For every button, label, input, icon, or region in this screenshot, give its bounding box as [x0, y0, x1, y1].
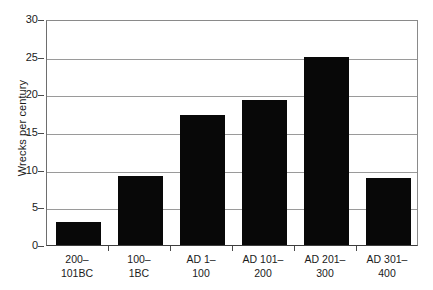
x-axis-tick-label-line: 400 [356, 266, 418, 280]
x-axis-tick-marks [46, 246, 418, 251]
x-axis-tick-label-line: 100 [170, 266, 232, 280]
y-axis-tick-mark [38, 95, 44, 96]
y-axis-tick-mark [38, 171, 44, 172]
bar-chart-figure: Wrecks per century 051015202530 200–101B… [0, 0, 433, 290]
x-axis-tick-mark [108, 246, 109, 251]
x-axis-tick-mark [232, 246, 233, 251]
bar [366, 178, 411, 245]
x-axis-tick-label: AD 201–300 [294, 252, 356, 280]
x-axis-tick-label-line: AD 301– [356, 252, 418, 266]
x-axis-tick-label-line: 1BC [108, 266, 170, 280]
y-axis-tick-mark [38, 133, 44, 134]
x-axis-tick-label-line: AD 1– [170, 252, 232, 266]
gridline [47, 209, 417, 210]
bar [56, 222, 101, 245]
x-axis-tick-label-line: 100– [108, 252, 170, 266]
x-axis-tick-label-line: 200– [46, 252, 108, 266]
x-axis-tick-label: AD 101–200 [232, 252, 294, 280]
x-axis-tick-mark [170, 246, 171, 251]
gridline [47, 96, 417, 97]
x-axis-tick-label-line: AD 201– [294, 252, 356, 266]
x-axis-tick-mark [356, 246, 357, 251]
y-axis-tick-marks [0, 20, 46, 246]
bar [304, 57, 349, 245]
x-axis-tick-label: 200–101BC [46, 252, 108, 280]
y-axis-tick-mark [38, 20, 44, 21]
y-axis-tick-mark [38, 58, 44, 59]
bar [118, 176, 163, 245]
y-axis-tick-mark [38, 208, 44, 209]
x-axis-tick-mark [294, 246, 295, 251]
x-axis-tick-label: AD 301–400 [356, 252, 418, 280]
x-axis-tick-label: AD 1–100 [170, 252, 232, 280]
plot-area [46, 20, 418, 246]
x-axis-tick-label-line: 300 [294, 266, 356, 280]
gridline [47, 134, 417, 135]
gridline [47, 59, 417, 60]
x-axis-tick-label-line: 101BC [46, 266, 108, 280]
gridline [47, 172, 417, 173]
bar [242, 100, 287, 245]
y-axis-tick-mark [38, 246, 44, 247]
x-axis-tick-label-line: AD 101– [232, 252, 294, 266]
x-axis-tick-labels: 200–101BC100–1BCAD 1–100AD 101–200AD 201… [46, 252, 418, 288]
x-axis-tick-label: 100–1BC [108, 252, 170, 280]
bar [180, 115, 225, 245]
x-axis-tick-label-line: 200 [232, 266, 294, 280]
